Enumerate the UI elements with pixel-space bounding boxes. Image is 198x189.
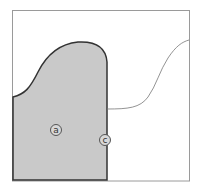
thin-curve <box>107 40 189 109</box>
area-under-curve-diagram <box>0 0 198 189</box>
label-a: a <box>50 124 62 136</box>
label-c: c <box>99 134 111 146</box>
shaded-region <box>13 42 107 180</box>
